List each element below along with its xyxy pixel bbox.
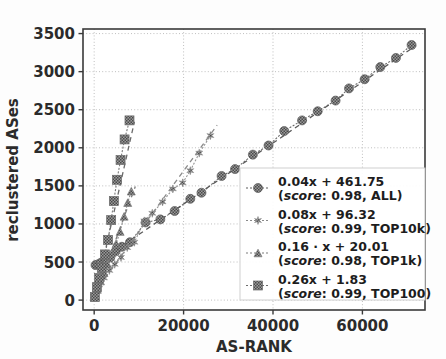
data-point-marker — [97, 264, 106, 273]
legend-equation: 0.26x + 1.83 — [278, 272, 367, 287]
data-point-marker — [104, 235, 113, 244]
data-point-marker — [156, 215, 165, 224]
x-tick-label: 60000 — [336, 317, 388, 335]
data-point-marker — [345, 84, 354, 93]
y-tick-label: 500 — [44, 254, 75, 272]
x-axis-title: AS-RANK — [216, 338, 293, 356]
y-tick-label: 2500 — [33, 101, 75, 119]
x-tick-label: 40000 — [247, 317, 299, 335]
data-point-marker — [92, 283, 101, 292]
data-point-marker — [125, 116, 134, 125]
y-axis-title: reclustered ASes — [4, 98, 22, 242]
legend-equation: 0.08x + 96.32 — [278, 207, 376, 222]
y-tick-label: 1000 — [33, 215, 75, 233]
y-axis-ticks: 0500100015002000250030003500 — [33, 25, 83, 310]
data-point-marker — [248, 150, 257, 159]
legend-equation: 0.04x + 461.75 — [278, 174, 384, 189]
legend-score: (score: 0.98, TOP1k) — [278, 253, 422, 268]
data-point-marker — [116, 155, 125, 164]
data-point-marker — [254, 184, 263, 193]
data-point-marker — [170, 207, 179, 216]
x-tick-label: 0 — [89, 317, 99, 335]
data-point-marker — [298, 116, 307, 125]
y-tick-label: 3500 — [33, 25, 75, 43]
x-axis-ticks: 0200004000060000 — [89, 310, 389, 335]
x-tick-label: 20000 — [157, 317, 209, 335]
data-point-marker — [376, 63, 385, 72]
data-point-marker — [331, 96, 340, 105]
legend[interactable]: 0.04x + 461.75(score: 0.98, ALL)0.08x + … — [240, 168, 431, 301]
y-tick-label: 1500 — [33, 177, 75, 195]
data-point-marker — [95, 274, 104, 283]
legend-score: (score: 0.99, TOP100) — [278, 286, 431, 301]
data-point-marker — [197, 188, 206, 197]
legend-score: (score: 0.99, TOP10k) — [278, 221, 431, 236]
scatter-plot: 0200004000060000 05001000150020002500300… — [0, 0, 446, 359]
data-point-marker — [231, 165, 240, 174]
data-point-marker — [90, 293, 99, 302]
legend-score: (score: 0.98, ALL) — [278, 188, 402, 203]
data-point-marker — [407, 40, 416, 49]
data-point-marker — [120, 135, 129, 144]
data-point-marker — [109, 197, 118, 206]
chart-figure: 0200004000060000 05001000150020002500300… — [0, 0, 446, 359]
data-point-marker — [254, 281, 263, 290]
data-point-marker — [107, 216, 116, 225]
y-tick-label: 3000 — [33, 63, 75, 81]
data-point-marker — [391, 53, 400, 62]
data-point-marker — [217, 171, 226, 180]
data-point-marker — [280, 127, 289, 136]
data-point-marker — [313, 107, 322, 116]
data-point-marker — [100, 250, 109, 259]
data-point-marker — [360, 75, 369, 84]
y-tick-label: 2000 — [33, 139, 75, 157]
data-point-marker — [112, 175, 121, 184]
data-point-marker — [264, 141, 273, 150]
data-point-marker — [186, 194, 195, 203]
legend-equation: 0.16 · x + 20.01 — [278, 239, 389, 254]
y-tick-label: 0 — [65, 292, 75, 310]
